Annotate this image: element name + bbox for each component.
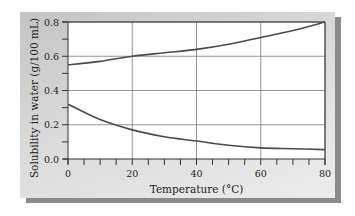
x-tick-label: 40 bbox=[190, 168, 202, 179]
x-tick-label: 0 bbox=[65, 168, 71, 179]
x-axis-label: Temperature (°C) bbox=[68, 183, 325, 195]
y-tick-label: 0.8 bbox=[44, 17, 59, 28]
y-tick-label: 0.6 bbox=[44, 51, 59, 62]
y-tick-label: 0.2 bbox=[44, 119, 59, 130]
x-tick-label: 60 bbox=[255, 168, 267, 179]
y-tick-label: 0.4 bbox=[44, 85, 59, 96]
x-tick-label: 80 bbox=[319, 168, 331, 179]
y-tick-label: 0.0 bbox=[44, 154, 59, 165]
x-tick-label: 20 bbox=[126, 168, 138, 179]
y-axis-label: Solubility in water (g/100 mL) bbox=[28, 8, 40, 188]
